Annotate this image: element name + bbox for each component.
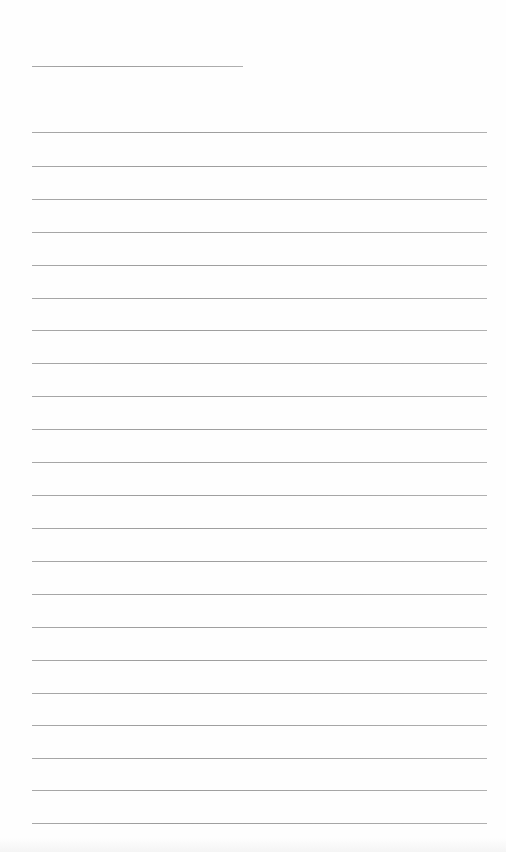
header-line (32, 66, 243, 67)
ruled-line (32, 462, 487, 463)
ruled-line (32, 330, 487, 331)
ruled-line (32, 232, 487, 233)
show-through-text (40, 0, 500, 16)
ruled-line (32, 758, 487, 759)
ruled-line (32, 396, 487, 397)
ruled-line (32, 528, 487, 529)
ruled-line (32, 594, 487, 595)
ruled-line (32, 725, 487, 726)
ruled-line (32, 429, 487, 430)
ruled-line (32, 298, 487, 299)
ruled-line (32, 627, 487, 628)
ruled-line (32, 660, 487, 661)
ruled-line (32, 561, 487, 562)
ruled-line (32, 363, 487, 364)
ruled-line (32, 199, 487, 200)
ruled-line (32, 790, 487, 791)
ruled-line (32, 693, 487, 694)
page-edge-shadow (0, 838, 506, 852)
ruled-line (32, 132, 487, 133)
ruled-line (32, 495, 487, 496)
ruled-line (32, 265, 487, 266)
ruled-paper-page (0, 0, 506, 852)
ruled-line (32, 166, 487, 167)
ruled-line (32, 823, 487, 824)
